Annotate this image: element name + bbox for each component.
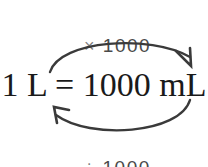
division-sign-icon: ÷ bbox=[84, 158, 95, 167]
divide-operation-label: ÷ 1000 bbox=[0, 139, 208, 167]
unit-conversion-diagram: × 1000 1 L = 1000 mL ÷ 1000 bbox=[0, 0, 208, 167]
spacer bbox=[96, 157, 103, 167]
equation-text: 1 L = 1000 mL bbox=[0, 64, 208, 106]
divide-factor-value: 1000 bbox=[103, 157, 151, 167]
